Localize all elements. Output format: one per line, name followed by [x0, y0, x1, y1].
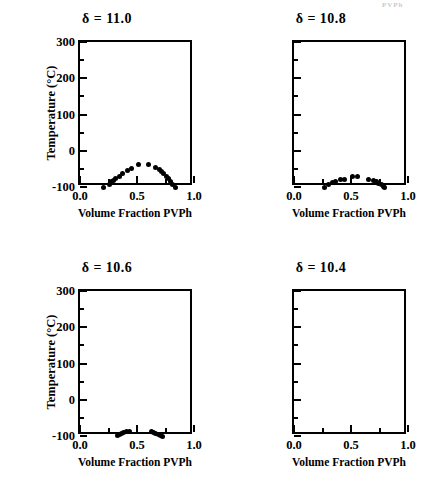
- y-tick-minor: [80, 381, 84, 383]
- y-tick-major: [80, 77, 87, 79]
- panel-delta-11-0: δ = 11.0 Temperature (°C) -1000100200300…: [0, 0, 214, 249]
- x-tick-major: [350, 425, 352, 432]
- x-tick-minor: [322, 179, 324, 183]
- y-tick-minor: [294, 344, 298, 346]
- y-tick-label: 200: [56, 71, 75, 86]
- panel-delta-10-6: δ = 10.6 Temperature (°C) -1000100200300…: [0, 249, 214, 498]
- y-tick-major: [294, 77, 301, 79]
- y-tick-major: [294, 186, 301, 188]
- x-axis-label: Volume Fraction PVPh: [292, 456, 406, 468]
- panel-delta-10-8: δ = 10.8 0.00.51.0 Volume Fraction PVPh: [214, 0, 428, 249]
- y-tick-minor: [80, 168, 84, 170]
- x-tick-label: 0.0: [72, 189, 88, 204]
- y-tick-minor: [294, 59, 298, 61]
- y-tick-minor: [80, 308, 84, 310]
- data-point: [136, 162, 141, 167]
- data-point: [160, 434, 165, 439]
- x-tick-major: [136, 176, 138, 183]
- x-axis-label: Volume Fraction PVPh: [78, 456, 192, 468]
- panel-title: δ = 10.6: [0, 260, 214, 276]
- data-point: [146, 162, 151, 167]
- x-tick-minor: [165, 428, 167, 432]
- x-tick-major: [193, 176, 195, 183]
- data-point: [127, 429, 132, 434]
- data-point: [129, 166, 134, 171]
- y-tick-minor: [80, 59, 84, 61]
- data-point: [355, 174, 360, 179]
- data-point: [382, 185, 387, 190]
- y-tick-major: [80, 363, 87, 365]
- x-tick-label: 0.0: [286, 438, 302, 453]
- y-tick-label: 300: [56, 284, 75, 299]
- y-tick-minor: [294, 95, 298, 97]
- x-tick-label: 0.0: [72, 438, 88, 453]
- x-tick-label: 1.0: [400, 189, 416, 204]
- x-tick-label: 1.0: [186, 189, 202, 204]
- x-tick-minor: [108, 428, 110, 432]
- x-tick-label: 0.5: [343, 438, 359, 453]
- phase-diagram-figure: PVPh δ = 11.0 Temperature (°C) -10001002…: [0, 0, 428, 498]
- y-tick-label: 100: [56, 107, 75, 122]
- y-tick-minor: [80, 344, 84, 346]
- x-tick-label: 0.5: [343, 189, 359, 204]
- panel-title: δ = 10.8: [214, 11, 428, 27]
- y-tick-minor: [80, 95, 84, 97]
- y-tick-label: 0: [69, 143, 75, 158]
- x-axis-label: Volume Fraction PVPh: [78, 207, 192, 219]
- x-tick-label: 1.0: [400, 438, 416, 453]
- y-tick-minor: [80, 132, 84, 134]
- x-tick-minor: [322, 428, 324, 432]
- y-tick-major: [294, 114, 301, 116]
- y-tick-major: [294, 150, 301, 152]
- panel-title: δ = 10.4: [214, 260, 428, 276]
- x-tick-minor: [379, 428, 381, 432]
- y-tick-major: [80, 435, 87, 437]
- plot-area: 0.00.51.0: [292, 40, 406, 185]
- x-axis-label: Volume Fraction PVPh: [292, 207, 406, 219]
- y-tick-major: [80, 186, 87, 188]
- y-tick-major: [294, 41, 301, 43]
- x-tick-major: [407, 176, 409, 183]
- x-tick-major: [293, 425, 295, 432]
- data-point: [101, 185, 106, 190]
- y-tick-minor: [294, 381, 298, 383]
- plot-area: 0.00.51.0: [292, 289, 406, 434]
- data-point: [342, 177, 347, 182]
- y-tick-major: [294, 326, 301, 328]
- y-tick-major: [80, 114, 87, 116]
- y-tick-major: [80, 399, 87, 401]
- panel-delta-10-4: δ = 10.4 0.00.51.0 Volume Fraction PVPh: [214, 249, 428, 498]
- x-tick-label: 1.0: [186, 438, 202, 453]
- y-tick-minor: [294, 308, 298, 310]
- y-tick-minor: [294, 168, 298, 170]
- x-tick-major: [136, 425, 138, 432]
- plot-area: -10001002003000.00.51.0: [78, 40, 192, 185]
- y-tick-minor: [80, 417, 84, 419]
- y-tick-minor: [294, 417, 298, 419]
- x-tick-label: 0.5: [129, 438, 145, 453]
- x-tick-major: [407, 425, 409, 432]
- x-tick-major: [79, 176, 81, 183]
- y-tick-major: [80, 150, 87, 152]
- y-tick-minor: [294, 132, 298, 134]
- y-tick-major: [294, 290, 301, 292]
- x-tick-label: 0.0: [286, 189, 302, 204]
- x-tick-label: 0.5: [129, 189, 145, 204]
- y-tick-label: 300: [56, 35, 75, 50]
- y-tick-major: [80, 41, 87, 43]
- y-tick-label: 100: [56, 356, 75, 371]
- x-tick-major: [79, 425, 81, 432]
- x-tick-major: [193, 425, 195, 432]
- data-point: [173, 185, 178, 190]
- y-tick-major: [294, 363, 301, 365]
- plot-area: -10001002003000.00.51.0: [78, 289, 192, 434]
- y-tick-label: 0: [69, 392, 75, 407]
- y-tick-major: [294, 435, 301, 437]
- y-tick-major: [80, 290, 87, 292]
- y-tick-major: [294, 399, 301, 401]
- y-tick-label: 200: [56, 320, 75, 335]
- panel-title: δ = 11.0: [0, 11, 214, 27]
- x-tick-major: [293, 176, 295, 183]
- y-tick-major: [80, 326, 87, 328]
